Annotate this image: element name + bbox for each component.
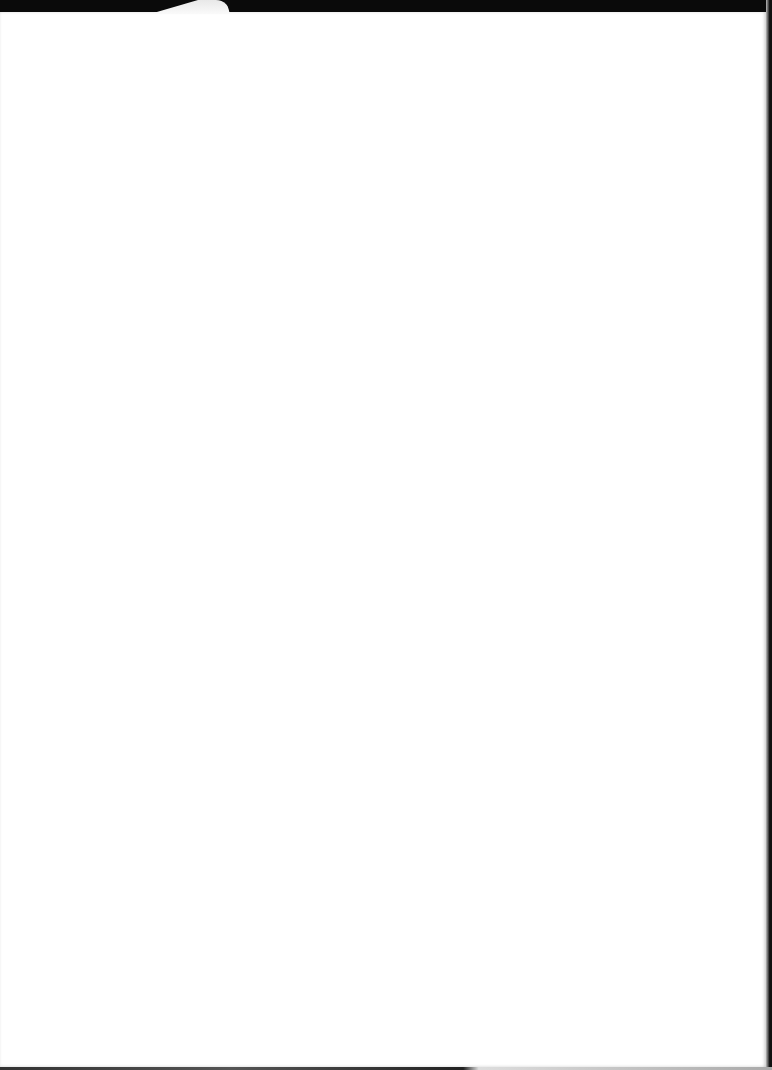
page-content [40, 52, 726, 1028]
scan-right-border [766, 0, 772, 1070]
blank-page [0, 12, 766, 1068]
